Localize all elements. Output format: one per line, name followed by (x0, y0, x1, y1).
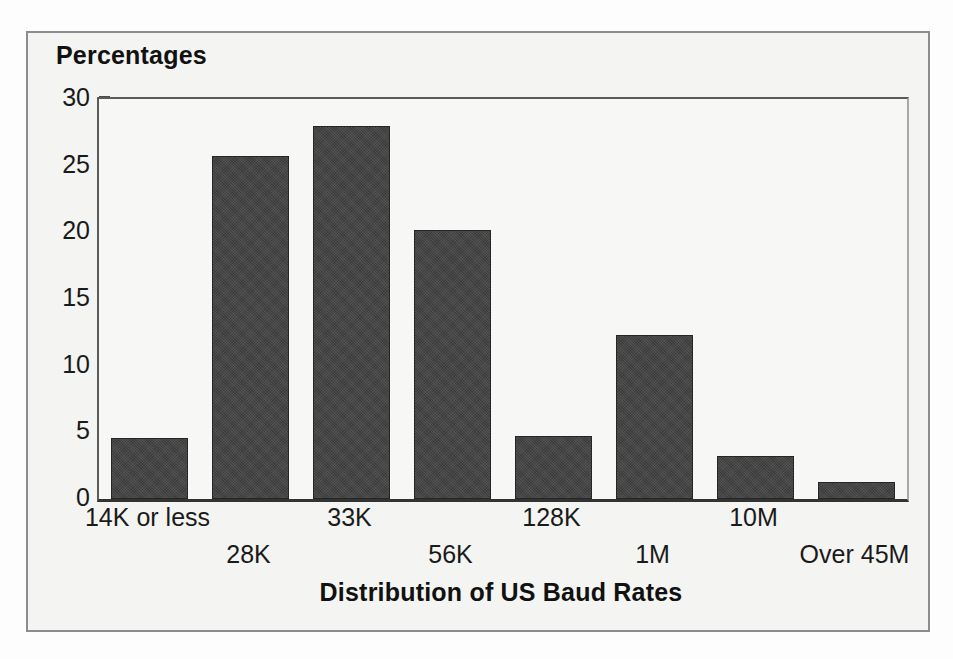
x-axis-tick-label: 128K (522, 503, 580, 532)
y-axis-tick-labels: 051015202530 (38, 97, 90, 497)
bar (212, 156, 289, 499)
bar (717, 456, 794, 499)
bar (616, 335, 693, 499)
y-axis-tick-label: 20 (44, 216, 90, 245)
bar (818, 482, 895, 499)
x-axis-title: Distribution of US Baud Rates (97, 578, 905, 607)
y-axis-tick-label: 30 (44, 83, 90, 112)
bar (515, 436, 592, 499)
x-axis-tick-label: 33K (327, 503, 371, 532)
y-axis-title: Percentages (56, 41, 207, 70)
x-axis-tick-label: 56K (428, 540, 472, 569)
bar (313, 126, 390, 499)
x-axis-tick-labels-lower-row: 28K56K1MOver 45M (97, 540, 905, 574)
x-axis-tick-label: 1M (635, 540, 670, 569)
bar (111, 438, 188, 499)
x-axis-tick-label: Over 45M (800, 540, 910, 569)
x-axis-tick-label: 28K (226, 540, 270, 569)
y-axis-tick-label: 10 (44, 349, 90, 378)
x-axis-tick-labels-upper-row: 14K or less33K128K10M (97, 503, 905, 537)
plot-area (97, 97, 909, 502)
y-axis-tick-label: 5 (44, 416, 90, 445)
bar (414, 230, 491, 499)
y-axis-tick-label: 15 (44, 283, 90, 312)
y-axis-tick-label: 0 (44, 483, 90, 512)
y-axis-tick-label: 25 (44, 149, 90, 178)
x-axis-tick-label: 14K or less (85, 503, 210, 532)
x-axis-tick-label: 10M (729, 503, 778, 532)
chart-screenshot: Percentages 051015202530 14K or less33K1… (0, 0, 953, 659)
